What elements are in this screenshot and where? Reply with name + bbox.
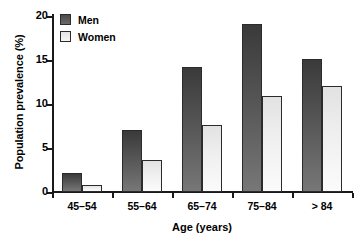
x-axis-title: Age (years) (52, 221, 352, 233)
x-tick-mark (52, 193, 54, 198)
legend-item-women[interactable]: Women (60, 28, 116, 45)
y-tick-label: 20 (36, 9, 48, 21)
bar-women-0[interactable] (82, 185, 102, 192)
y-tick-label: 15 (36, 53, 48, 65)
bar-women-4[interactable] (322, 86, 342, 192)
legend-label-men: Men (78, 14, 99, 26)
bar-men-3[interactable] (242, 24, 262, 192)
legend-item-men[interactable]: Men (60, 11, 116, 28)
x-category-label: 75–84 (247, 200, 276, 212)
bar-men-2[interactable] (182, 67, 202, 192)
x-tick-mark (172, 193, 174, 198)
bar-men-4[interactable] (302, 59, 322, 192)
x-tick-mark (352, 193, 354, 198)
legend: Men Women (60, 11, 116, 45)
y-axis-title: Population prevalence (%) (13, 7, 25, 197)
x-tick-mark (112, 193, 114, 198)
y-tick-label: 5 (42, 141, 48, 153)
bar-women-1[interactable] (142, 160, 162, 192)
x-tick-mark (292, 193, 294, 198)
bar-women-2[interactable] (202, 125, 222, 192)
y-tick-label: 0 (42, 185, 48, 197)
x-tick-mark (232, 193, 234, 198)
y-tick-label: 10 (36, 97, 48, 109)
bar-men-1[interactable] (122, 130, 142, 192)
bar-chart-figure: Population prevalence (%) 05101520 45–54… (0, 0, 357, 242)
bar-men-0[interactable] (62, 173, 82, 192)
legend-swatch-men-icon (60, 14, 71, 25)
x-category-label: > 84 (312, 200, 333, 212)
x-category-label: 45–54 (67, 200, 96, 212)
bar-women-3[interactable] (262, 96, 282, 192)
x-category-label: 65–74 (187, 200, 216, 212)
legend-swatch-women-icon (60, 31, 71, 42)
x-category-label: 55–64 (127, 200, 156, 212)
legend-label-women: Women (78, 31, 116, 43)
